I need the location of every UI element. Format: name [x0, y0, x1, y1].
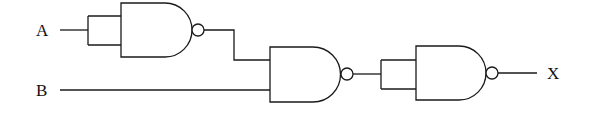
logic-circuit-diagram: A B X [0, 0, 591, 117]
input-label-a: A [36, 21, 49, 40]
output-label-x: X [547, 64, 559, 83]
nand-gate-3 [416, 46, 498, 100]
inversion-bubble-1 [192, 24, 204, 36]
nand-gate-1 [121, 3, 204, 57]
nand-gate-2 [270, 47, 353, 102]
wire-gate2-to-gate3 [353, 60, 416, 89]
inversion-bubble-2 [341, 68, 353, 80]
wire-a [60, 16, 121, 45]
inversion-bubble-3 [486, 67, 498, 79]
input-label-b: B [36, 81, 47, 100]
wire-gate1-to-gate2 [204, 30, 270, 60]
